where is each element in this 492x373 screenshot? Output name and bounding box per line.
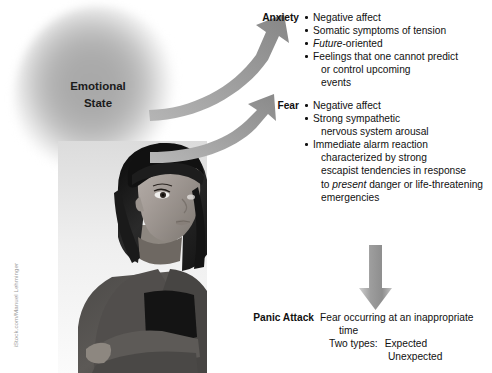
anxiety-bullet-1: Somatic symptoms of tension xyxy=(313,25,446,36)
fear-bullet-2-cont-a: characterized by strong xyxy=(313,151,491,164)
emotional-state-label-line1: Emotional xyxy=(70,80,126,92)
list-item: Negative affect xyxy=(305,99,491,112)
bullet-dot-icon xyxy=(305,143,308,146)
fear-bullet-1-cont-0: nervous system arousal xyxy=(313,125,491,138)
fear-bullet-1: Strong sympathetic xyxy=(313,113,400,124)
emotional-state-label-line2: State xyxy=(36,95,160,112)
panic-attack-label: Panic Attack xyxy=(224,311,314,324)
fear-bullet-2-cont-c: to present danger or life-threatening xyxy=(313,178,491,191)
panic-types-label: Two types: xyxy=(329,338,378,349)
list-item: Strong sympathetic nervous system arousa… xyxy=(305,112,491,138)
anxiety-bullet-3-cont-1: events xyxy=(313,76,489,89)
bullet-dot-icon xyxy=(305,104,308,107)
bullet-dot-icon xyxy=(305,117,308,120)
fear-cont-c-italic: present xyxy=(332,179,366,190)
fear-bullet-2-cont-d: emergencies xyxy=(313,191,491,204)
photo-credit: iStock.com/Manuel Lehminger xyxy=(12,252,19,348)
panic-types-row: Two types:Expected xyxy=(320,337,492,350)
list-item: Future-oriented xyxy=(305,37,489,50)
anxiety-label: Anxiety xyxy=(221,11,299,24)
fear-label: Fear xyxy=(221,99,299,112)
list-item: Negative affect xyxy=(305,11,489,24)
list-item: Somatic symptoms of tension xyxy=(305,24,489,37)
anxiety-block: Anxiety Negative affect Somatic symptoms… xyxy=(305,11,489,90)
photo-woman-arms-crossed xyxy=(58,141,207,373)
panic-line-2: time xyxy=(320,324,492,337)
list-item: Immediate alarm reaction characterized b… xyxy=(305,138,491,203)
fear-bullet-2: Immediate alarm reaction xyxy=(313,139,428,150)
fear-cont-c-post: danger or life-threatening xyxy=(366,179,483,190)
fear-block: Fear Negative affect Strong sympathetic … xyxy=(305,99,491,204)
anxiety-bullet-3-cont-0: or control upcoming xyxy=(313,63,489,76)
anxiety-bullet-2: -oriented xyxy=(342,38,382,49)
panic-line-1: Fear occurring at an inappropriate xyxy=(320,311,492,324)
list-item: Feelings that one cannot predict or cont… xyxy=(305,50,489,89)
fear-bullet-list: Negative affect Strong sympathetic nervo… xyxy=(305,99,491,204)
figure-emotional-state-diagram: iStock.com/Manuel Lehminger Emotional St… xyxy=(0,0,492,373)
emotional-state-label: Emotional State xyxy=(36,78,160,112)
anxiety-bullet-0: Negative affect xyxy=(313,12,381,23)
bullet-dot-icon xyxy=(305,55,308,58)
panic-type-expected: Expected xyxy=(378,337,427,350)
fear-bullet-0: Negative affect xyxy=(313,100,381,111)
fear-bullet-2-cont-b: escapist tendencies in response xyxy=(313,164,491,177)
bullet-dot-icon xyxy=(305,16,308,19)
fear-cont-c-pre: to xyxy=(321,179,332,190)
anxiety-bullet-2-italic: Future xyxy=(313,38,342,49)
panic-type-unexpected: Unexpected xyxy=(320,350,492,363)
panic-attack-block: Panic Attack Fear occurring at an inappr… xyxy=(320,311,492,363)
anxiety-bullet-3: Feelings that one cannot predict xyxy=(313,51,458,62)
bullet-dot-icon xyxy=(305,42,308,45)
anxiety-bullet-list: Negative affect Somatic symptoms of tens… xyxy=(305,11,489,90)
arrow-down-panic-icon xyxy=(359,245,392,310)
bullet-dot-icon xyxy=(305,29,308,32)
